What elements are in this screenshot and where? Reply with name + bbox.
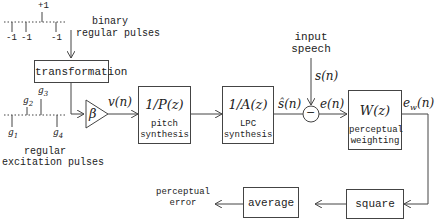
perceptual-weighting-block: W(z) perceptual weighting [348,90,402,150]
signal-v: v(n) [108,96,132,108]
binary-label-line2: regular pulses [76,28,160,39]
binary-value-2: -1 [21,34,32,44]
binary-value-1: -1 [6,34,17,44]
gain-g2: g2 [23,96,33,108]
transformation-label: transformation [35,66,108,78]
gain-g4: g4 [53,128,63,140]
square-label: square [347,198,403,210]
summer-minus-symbol: − [306,107,315,118]
binary-top-value: +1 [38,2,49,12]
signal-s-hat: ŝ(n) [278,98,301,110]
transformation-block: transformation [34,60,109,83]
pitch-formula: 1/P(z) [139,97,190,112]
pitch-sub1: pitch [139,119,190,130]
speech-coder-diagram: +1 -1 -1 -1 binary regular pulses transf… [0,0,439,224]
pitch-sub2: synthesis [139,130,190,141]
gain-beta-symbol: β [89,107,97,120]
binary-value-3: -1 [51,34,62,44]
excitation-label-line1: regular [10,146,80,157]
signal-e: e(n) [320,98,344,110]
lpc-sub2: synthesis [223,130,273,141]
pitch-synthesis-block: 1/P(z) pitch synthesis [138,86,191,144]
lpc-formula: 1/A(z) [223,97,273,112]
gain-g3: g3 [38,86,48,98]
weighting-sub2: weighting [349,136,401,147]
lpc-sub1: LPC [223,119,273,130]
average-label: average [244,197,298,209]
weighting-sub1: perceptual [349,125,401,136]
average-block: average [243,187,299,218]
input-label-line1: input [286,31,336,43]
output-label-line2: error [155,199,211,209]
signal-s: s(n) [315,70,338,82]
lpc-synthesis-block: 1/A(z) LPC synthesis [222,86,274,144]
input-label-line2: speech [286,43,336,55]
signal-ew: ew(n) [403,97,434,112]
binary-label-line1: binary [92,16,128,27]
square-block: square [346,189,404,219]
weighting-formula: W(z) [349,103,401,118]
excitation-label-line2: excitation pulses [2,157,104,168]
output-label-line1: perceptual [155,188,211,198]
gain-g1: g1 [8,128,18,140]
